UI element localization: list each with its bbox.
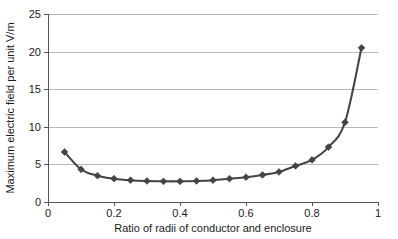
y-axis-title: Maximum electric field per unit V/m (4, 22, 16, 193)
data-point-marker (342, 119, 349, 126)
data-point-marker (226, 175, 233, 182)
data-point-marker (177, 178, 184, 185)
gridlines-group (48, 15, 378, 165)
x-tick-label: 0.6 (238, 207, 253, 219)
data-point-marker (292, 163, 299, 170)
x-tick-label: 0 (45, 207, 51, 219)
y-tick-group: 0510152025 (29, 8, 48, 208)
x-axis-title: Ratio of radii of conductor and enclosur… (114, 222, 312, 234)
x-tick-group: 00.20.40.60.81 (45, 202, 381, 219)
line-chart-canvas: 0510152025 00.20.40.60.81 Ratio of radii… (0, 0, 398, 239)
chart-figure: 0510152025 00.20.40.60.81 Ratio of radii… (0, 0, 398, 239)
x-tick-label: 1 (375, 207, 381, 219)
series-markers-group (61, 44, 365, 184)
data-point-marker (193, 178, 200, 185)
data-point-marker (259, 172, 266, 179)
data-point-marker (111, 175, 118, 182)
y-tick-label: 15 (29, 83, 41, 95)
y-tick-label: 25 (29, 8, 41, 20)
x-tick-label: 0.4 (172, 207, 187, 219)
y-tick-label: 0 (35, 196, 41, 208)
data-point-marker (276, 169, 283, 176)
y-tick-label: 5 (35, 158, 41, 170)
data-point-marker (144, 178, 151, 185)
series-line-path (65, 48, 362, 182)
data-point-marker (358, 44, 365, 51)
data-point-marker (94, 172, 101, 179)
x-tick-label: 0.2 (106, 207, 121, 219)
data-point-marker (160, 178, 167, 185)
y-tick-label: 10 (29, 121, 41, 133)
data-point-marker (210, 177, 217, 184)
data-point-marker (243, 174, 250, 181)
x-tick-label: 0.8 (304, 207, 319, 219)
y-tick-label: 20 (29, 46, 41, 58)
data-point-marker (127, 177, 134, 184)
